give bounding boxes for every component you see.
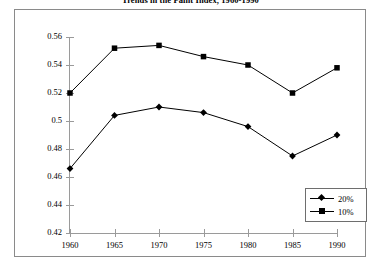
x-tick-label: 1980 (240, 240, 257, 250)
series-line (70, 107, 337, 169)
x-tick-label: 1970 (151, 240, 168, 250)
legend-marker-square-icon (310, 206, 334, 217)
x-tick-label: 1960 (62, 240, 79, 250)
legend-item-10[interactable]: 10% (306, 205, 366, 218)
x-tick-mark (337, 229, 338, 237)
data-point-square (67, 90, 73, 96)
chart-page: Trends in the Paint Index, 1960-1990 0.4… (0, 0, 381, 269)
data-point-diamond (289, 153, 296, 160)
data-point-square (334, 65, 340, 71)
y-tick-label: 0.46 (47, 171, 62, 181)
legend-item-20[interactable]: 20% (306, 192, 366, 205)
data-point-diamond (200, 109, 207, 116)
chart-legend: 20% 10% (305, 188, 367, 222)
series-10pct (67, 43, 340, 96)
y-tick-label: 0.5 (51, 115, 62, 125)
x-tick-label: 1975 (195, 240, 212, 250)
x-tick-label: 1990 (329, 240, 346, 250)
legend-label-10: 10% (338, 207, 354, 217)
data-point-diamond (156, 104, 163, 111)
y-tick-label: 0.54 (47, 59, 62, 69)
chart-title: Trends in the Paint Index, 1960-1990 (0, 0, 381, 5)
data-point-diamond (334, 132, 341, 139)
y-tick-label: 0.52 (47, 87, 62, 97)
data-point-square (245, 62, 251, 68)
y-tick-label: 0.48 (47, 143, 62, 153)
data-point-square (112, 45, 118, 51)
series-layer (70, 37, 337, 233)
legend-label-20: 20% (338, 194, 354, 204)
data-point-square (156, 43, 162, 49)
data-point-diamond (245, 123, 252, 130)
x-tick-label: 1965 (106, 240, 123, 250)
data-point-square (201, 54, 207, 60)
plot-area: 0.420.440.460.480.50.520.540.56 19601965… (69, 37, 337, 234)
series-20pct (67, 104, 341, 172)
series-line (70, 45, 337, 93)
data-point-square (290, 90, 296, 96)
legend-marker-diamond-icon (310, 193, 334, 204)
y-tick-label: 0.42 (47, 227, 62, 237)
y-tick-label: 0.44 (47, 199, 62, 209)
x-tick-label: 1985 (284, 240, 301, 250)
y-tick-label: 0.56 (47, 31, 62, 41)
